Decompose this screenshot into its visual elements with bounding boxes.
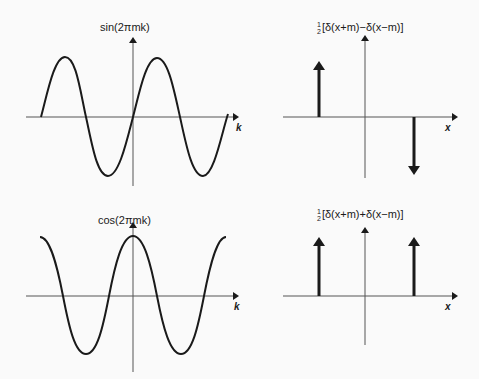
even-x-label: x bbox=[445, 301, 451, 312]
odd-delta-panel bbox=[283, 38, 455, 178]
sin-label: sin(2πmk) bbox=[100, 21, 150, 33]
half-fraction: 12 bbox=[317, 21, 321, 35]
even-delta-label: 12[δ(x+m)+δ(x−m)] bbox=[317, 208, 404, 222]
sin-panel bbox=[26, 40, 236, 186]
sin-x-label: k bbox=[236, 122, 242, 133]
diagram-canvas bbox=[0, 0, 479, 379]
cos-panel bbox=[26, 225, 236, 372]
cos-label: cos(2πmk) bbox=[98, 214, 151, 226]
cos-x-label: k bbox=[234, 301, 240, 312]
odd-x-label: x bbox=[445, 122, 451, 133]
odd-delta-label: 12[δ(x+m)−δ(x−m)] bbox=[317, 21, 404, 35]
half-fraction: 12 bbox=[317, 208, 321, 222]
even-delta-panel bbox=[283, 230, 455, 345]
